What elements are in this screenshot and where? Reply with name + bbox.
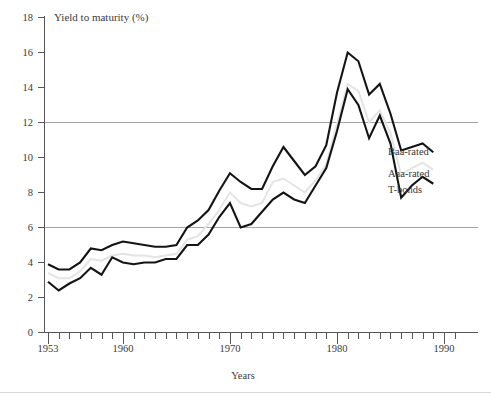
x-axis-title: Years — [231, 370, 254, 381]
y-tick-label-8: 8 — [28, 187, 33, 198]
x-tick-label-1980: 1980 — [327, 343, 348, 354]
x-tick-label-1960: 1960 — [113, 343, 134, 354]
y-tick-label-12: 12 — [23, 117, 34, 128]
series-label-baa-rated: Baa-rated — [388, 146, 430, 157]
x-tick-label-1990: 1990 — [434, 343, 455, 354]
x-tick-label-1953: 1953 — [38, 343, 59, 354]
x-tick-label-1970: 1970 — [220, 343, 241, 354]
y-axis-title: Yield to maturity (%) — [54, 11, 149, 24]
y-tick-label-4: 4 — [28, 257, 34, 268]
y-tick-label-18: 18 — [23, 12, 34, 23]
series-line-t-bonds — [48, 89, 433, 290]
series-line-baa-rated — [48, 53, 433, 270]
yield-to-maturity-line-chart: 0 2 4 6 8 10 12 14 16 18 Yield to maturi… — [0, 0, 491, 396]
x-axis-ticks — [49, 333, 456, 344]
y-tick-label-14: 14 — [23, 82, 34, 93]
y-tick-label-16: 16 — [23, 47, 34, 58]
y-tick-label-0: 0 — [28, 327, 33, 338]
y-tick-label-6: 6 — [28, 222, 33, 233]
y-tick-label-2: 2 — [28, 292, 33, 303]
series-label-aaa-rated: Aaa-rated — [388, 168, 430, 179]
y-tick-label-10: 10 — [23, 152, 34, 163]
series-label-t-bonds: T-bonds — [388, 184, 422, 195]
chart-figure: 0 2 4 6 8 10 12 14 16 18 Yield to maturi… — [0, 0, 491, 396]
